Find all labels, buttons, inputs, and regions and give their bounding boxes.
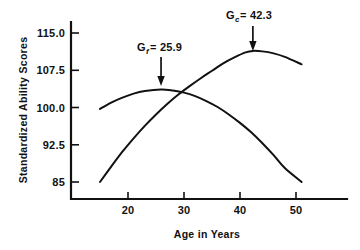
x-axis-title: Age in Years [174,228,240,240]
chart-figure: 115.0 107.5 100.0 92.5 85 20 30 40 50 Ag… [0,0,360,250]
y-tick-marks [71,33,79,182]
curve-gf [100,90,302,182]
x-tick-label-30: 30 [178,204,191,216]
gf-annotation-value: = 25.9 [150,41,182,53]
gc-arrow-head [249,41,256,51]
y-axis-title: Standardized Ability Scores [17,37,29,184]
gc-annotation-value: = 42.3 [240,9,272,21]
y-tick-label-100: 100.0 [36,102,65,114]
gf-annotation: G f = 25.9 [137,41,182,86]
y-tick-label-85: 85 [52,176,65,188]
y-tick-label-92-5: 92.5 [43,139,65,151]
gc-annotation: G c = 42.3 [226,9,272,51]
x-tick-label-40: 40 [234,204,247,216]
y-tick-label-115: 115.0 [37,27,65,39]
x-tick-label-20: 20 [122,204,135,216]
gf-annotation-label: G [137,41,146,53]
curve-gc [100,51,302,182]
y-tick-label-107-5: 107.5 [36,64,65,76]
chart-plot-area: 115.0 107.5 100.0 92.5 85 20 30 40 50 Ag… [0,0,360,250]
gc-annotation-label: G [226,9,235,21]
x-tick-label-50: 50 [290,204,303,216]
gf-arrow-head [157,76,164,86]
axis-lines [71,22,347,199]
